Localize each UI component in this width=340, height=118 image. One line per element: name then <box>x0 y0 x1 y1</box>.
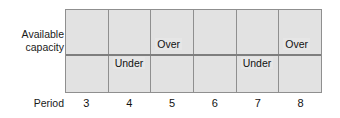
period-column-6 <box>194 10 237 92</box>
cell-label-period-8: Over <box>283 38 310 50</box>
x-tick-5: 5 <box>151 96 194 112</box>
period-column-3 <box>66 10 109 92</box>
x-tick-3: 3 <box>65 96 108 112</box>
x-tick-7: 7 <box>236 96 279 112</box>
x-axis-tick-labels: 3 4 5 6 7 8 <box>65 96 322 112</box>
plot-area: Under Over Under Over <box>65 9 322 93</box>
cell-label-period-5: Over <box>155 38 182 50</box>
x-axis-label: Period <box>2 97 64 109</box>
y-axis-label-line-1: Available <box>2 28 64 41</box>
period-column-7: Under <box>237 10 280 92</box>
period-column-5: Over <box>151 10 194 92</box>
period-column-8: Over <box>279 10 321 92</box>
y-axis-label: Available capacity <box>2 28 64 53</box>
available-capacity-reference-line <box>66 54 321 56</box>
x-tick-6: 6 <box>193 96 236 112</box>
x-tick-8: 8 <box>279 96 322 112</box>
x-tick-4: 4 <box>108 96 151 112</box>
period-columns: Under Over Under Over <box>66 10 321 92</box>
y-axis-label-line-2: capacity <box>2 41 64 54</box>
capacity-period-chart: Available capacity Under Over Under Over <box>0 0 340 118</box>
cell-label-period-7: Under <box>241 57 274 69</box>
period-column-4: Under <box>109 10 152 92</box>
cell-label-period-4: Under <box>113 57 146 69</box>
